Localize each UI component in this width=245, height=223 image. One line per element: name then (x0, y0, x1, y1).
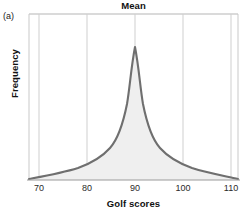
distribution-fill (29, 47, 238, 180)
figure-panel-a: (a) Mean Frequency 70 80 90 100 110 Golf… (0, 0, 245, 223)
x-tick-label-90: 90 (120, 183, 150, 193)
x-tick-label-80: 80 (72, 183, 102, 193)
x-tick-label-110: 110 (216, 183, 245, 193)
x-tick-label-100: 100 (168, 183, 198, 193)
x-tick-label-70: 70 (24, 183, 54, 193)
x-axis-label: Golf scores (29, 198, 238, 209)
